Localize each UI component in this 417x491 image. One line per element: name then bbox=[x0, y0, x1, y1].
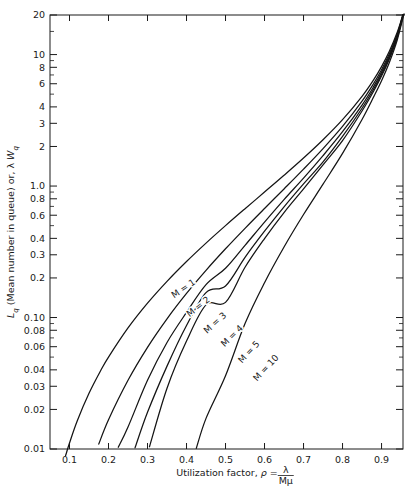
y-tick-label: 10 bbox=[33, 49, 45, 60]
x-axis-tick-labels: 0.10.20.30.40.50.60.70.80.9 bbox=[62, 454, 389, 465]
y-tick-label: 6 bbox=[39, 78, 45, 89]
x-tick-label: 0.7 bbox=[296, 454, 311, 465]
svg-text:Utilization factor, ρ =: Utilization factor, ρ = bbox=[176, 467, 278, 478]
x-tick-label: 0.3 bbox=[140, 454, 155, 465]
x-tick-label: 0.4 bbox=[179, 454, 194, 465]
y-tick-label: 0.02 bbox=[24, 404, 45, 415]
y-tick-label: 0.03 bbox=[24, 381, 45, 392]
y-tick-label: 8 bbox=[39, 62, 45, 73]
y-tick-label: 0.6 bbox=[30, 210, 45, 221]
x-tick-label: 0.2 bbox=[101, 454, 116, 465]
y-tick-label: 0.01 bbox=[24, 443, 45, 454]
x-tick-label: 0.6 bbox=[257, 454, 272, 465]
y-tick-label: 0.2 bbox=[30, 272, 45, 283]
y-tick-label: 0.06 bbox=[24, 341, 45, 352]
y-tick-label: 3 bbox=[39, 118, 45, 129]
x-title-fraction-numerator: λ bbox=[283, 464, 289, 475]
y-tick-label: 0.4 bbox=[30, 233, 45, 244]
chart-background bbox=[0, 0, 417, 491]
y-tick-label: 4 bbox=[39, 101, 45, 112]
y-tick-label: 0.10 bbox=[24, 312, 45, 323]
x-title-fraction-denominator: Mμ bbox=[279, 475, 293, 486]
chart-figure: 0.10.20.30.40.50.60.70.80.9 0.010.020.03… bbox=[0, 0, 417, 491]
x-tick-label: 0.8 bbox=[335, 454, 350, 465]
queueing-lq-chart: 0.10.20.30.40.50.60.70.80.9 0.010.020.03… bbox=[0, 0, 417, 491]
y-tick-label: 0.8 bbox=[30, 193, 45, 204]
y-tick-label: 0.08 bbox=[24, 325, 45, 336]
y-tick-label: 2 bbox=[39, 141, 45, 152]
y-tick-label: 20 bbox=[33, 9, 45, 20]
y-tick-label: 1.0 bbox=[30, 180, 45, 191]
x-tick-label: 0.1 bbox=[62, 454, 77, 465]
y-tick-label: 0.04 bbox=[24, 364, 45, 375]
x-tick-label: 0.5 bbox=[218, 454, 233, 465]
x-tick-label: 0.9 bbox=[374, 454, 389, 465]
y-tick-label: 0.3 bbox=[30, 249, 45, 260]
